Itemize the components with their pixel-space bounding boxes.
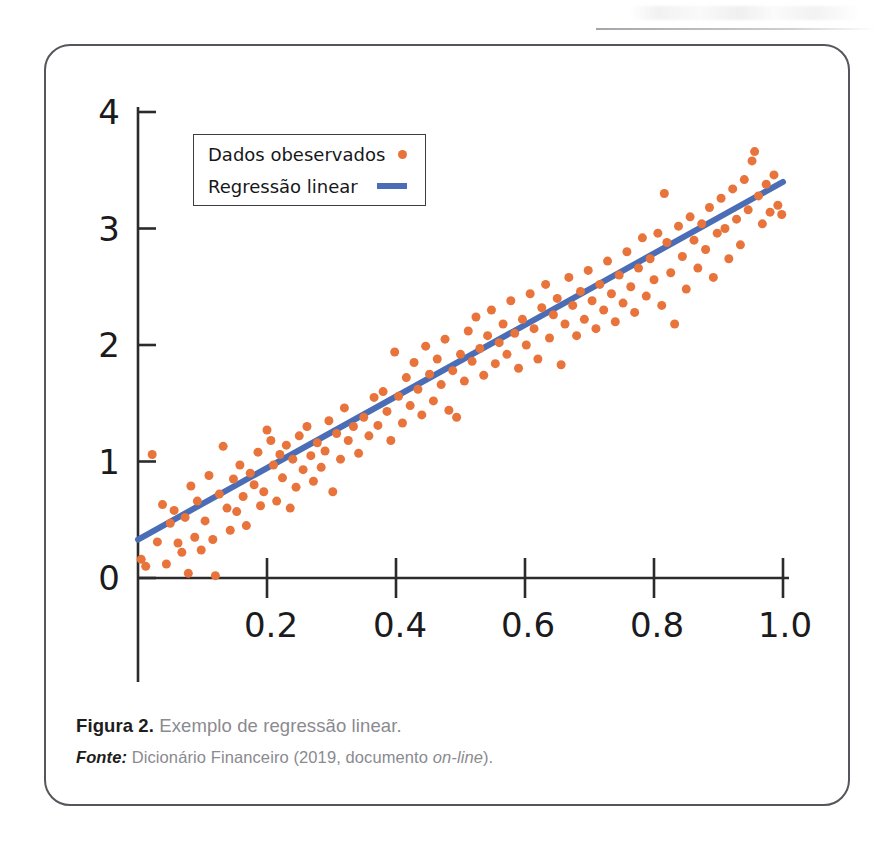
source-text-italic: on-line [433,748,483,766]
caption-source-line: Fonte: Dicionário Financeiro (2019, docu… [76,748,776,767]
scan-artifact-line [596,28,876,30]
figure-caption: Figura 2. Exemplo de regressão linear. F… [76,715,776,767]
figure-title-text: Exemplo de regressão linear. [154,715,402,736]
y-tick-label-0: 0 [76,561,120,595]
source-text-after: ). [483,748,493,766]
y-tick-label-2: 2 [76,328,120,362]
scan-artifact-band [630,6,860,20]
legend-label-regression: Regressão linear [208,176,377,197]
line-marker-icon [377,183,407,189]
y-tick-label-3: 3 [76,212,120,246]
x-tick-label-1: 0.4 [350,608,450,642]
source-text-before: Dicionário Financeiro (2019, documento [127,748,433,766]
dot-marker-icon [398,150,407,159]
x-tick-label-0: 0.2 [221,608,321,642]
x-tick-label-2: 0.6 [478,608,578,642]
x-tick-label-3: 0.8 [607,608,707,642]
legend-item-observed: Dados obeservados [208,139,415,169]
figure-number-label: Figura 2. [76,715,154,736]
caption-title-line: Figura 2. Exemplo de regressão linear. [76,715,776,737]
source-label: Fonte: [76,748,127,766]
figure-frame [44,44,850,806]
x-tick-label-4: 1.0 [735,608,835,642]
y-tick-label-4: 4 [76,95,120,129]
legend-label-observed: Dados obeservados [208,144,398,165]
chart-legend: Dados obeservados Regressão linear [193,134,426,206]
y-tick-label-1: 1 [76,445,120,479]
legend-item-regression: Regressão linear [208,171,415,201]
